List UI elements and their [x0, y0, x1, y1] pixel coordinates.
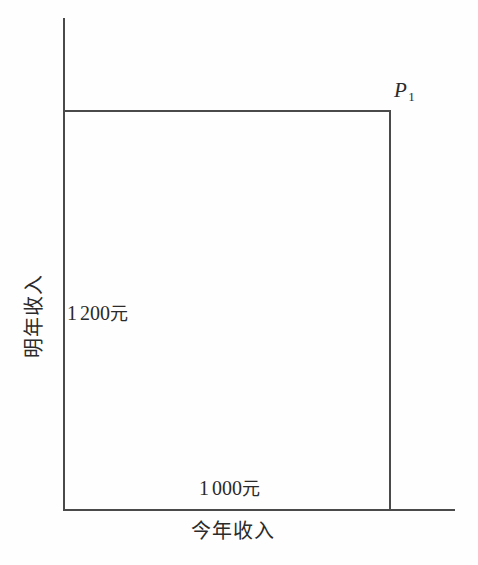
y-axis-line	[63, 18, 65, 511]
y-value-prefix: 1	[67, 302, 77, 324]
endowment-point-label: P1	[394, 80, 415, 103]
y-axis-title: 明年收入	[24, 261, 44, 371]
endowment-point-subscript: 1	[408, 89, 415, 104]
endowment-box-right-edge	[389, 110, 391, 511]
x-intercept-value-label: 1000元	[199, 478, 260, 498]
endowment-point-letter: P	[394, 78, 407, 102]
y-value-unit: 元	[110, 303, 128, 324]
x-axis-line	[63, 509, 455, 511]
x-value-suffix: 000	[212, 477, 242, 499]
x-value-unit: 元	[242, 478, 260, 499]
x-axis-title: 今年收入	[191, 521, 275, 541]
x-value-prefix: 1	[199, 477, 209, 499]
endowment-box-top-edge	[63, 110, 391, 112]
budget-constraint-figure: P1 1200元 1000元 今年收入 明年收入	[0, 0, 478, 565]
y-value-suffix: 200	[80, 302, 110, 324]
y-intercept-value-label: 1200元	[67, 303, 128, 323]
